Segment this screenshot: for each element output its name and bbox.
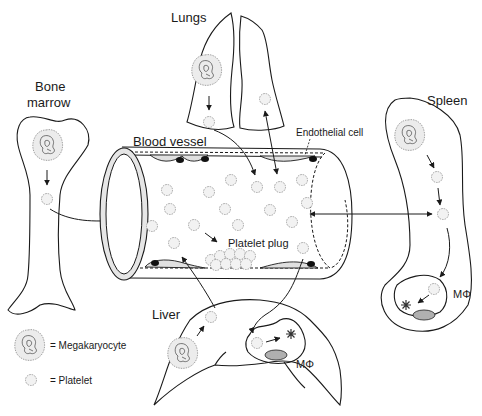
blood-vessel: Blood vessel Endothelial cell	[100, 127, 363, 280]
endothelial-nucleus	[176, 157, 184, 163]
plug-platelet	[221, 259, 232, 270]
platelet-plug	[206, 249, 256, 271]
lungs-megakaryocyte	[192, 55, 222, 86]
liver-production-arrow	[197, 326, 204, 336]
liver-phagocytosis-arrow	[266, 338, 280, 342]
platelet	[226, 175, 237, 186]
platelet	[302, 198, 313, 209]
lungs-platelet-2	[260, 94, 271, 105]
plug-platelet	[241, 259, 252, 270]
vessel-top-basement-membrane	[130, 152, 325, 153]
platelet-lifecycle-diagram: Lungs Bone marrow Blood vessel	[0, 0, 482, 416]
plug-platelet	[211, 260, 222, 271]
spleen-degraded-platelet-icon	[401, 300, 411, 310]
bone-marrow-platelet	[42, 194, 53, 205]
endothelial-cell	[260, 156, 315, 161]
liver-degraded-platelet-icon	[286, 329, 296, 339]
legend: = Megakaryocyte = Platelet	[15, 330, 127, 386]
lungs-organ: Lungs	[171, 10, 284, 130]
endothelial-cell-label: Endothelial cell	[296, 127, 363, 138]
vessel-far-end-opening	[311, 153, 348, 268]
plug-platelet	[231, 259, 242, 270]
platelet	[220, 204, 231, 215]
liver-macrophage-nucleus	[265, 350, 287, 360]
platelet-plug-label: Platelet plug	[228, 237, 289, 249]
spleen-flow-arrow	[438, 188, 440, 205]
bone-marrow-megakaryocyte	[33, 130, 63, 161]
platelet	[265, 205, 276, 216]
plug-platelet	[235, 249, 246, 260]
spleen-production-arrow	[427, 155, 434, 168]
platelet	[252, 182, 263, 193]
spleen-platelet	[432, 172, 443, 183]
endothelial-nucleus	[309, 156, 317, 162]
blood-vessel-label: Blood vessel	[133, 134, 207, 149]
bone-marrow-label-line2: marrow	[27, 95, 71, 110]
legend-megakaryocyte-symbol	[15, 330, 45, 361]
platelet	[204, 187, 215, 198]
liver-label: Liver	[152, 307, 181, 322]
endothelial-nucleus	[151, 260, 159, 266]
vessel-near-end-lumen	[106, 154, 142, 274]
spleen-macrophage-label: MΦ	[453, 288, 471, 300]
liver-engulfed-platelet	[252, 338, 263, 349]
legend-platelet-label: = Platelet	[50, 375, 92, 386]
platelet	[169, 238, 180, 249]
liver-lobe-line	[215, 352, 226, 365]
platelet	[189, 220, 200, 231]
lungs-vessel-exchange-arrow	[265, 111, 277, 174]
spleen-platelet-2	[438, 209, 449, 220]
legend-megakaryocyte-label: = Megakaryocyte	[50, 340, 127, 351]
legend-platelet-symbol	[26, 375, 37, 386]
spleen-engulfed-platelet	[429, 284, 440, 295]
platelet	[162, 185, 173, 196]
right-lung-outline	[239, 16, 284, 130]
spleen-phagocytosis-arrow	[418, 295, 429, 303]
bone-marrow-label-line1: Bone	[35, 79, 65, 94]
endothelial-nucleus	[307, 261, 315, 267]
spleen-macrophage-nucleus	[413, 310, 435, 320]
liver-megakaryocyte	[168, 338, 198, 369]
platelet	[298, 243, 309, 254]
platelet	[275, 182, 286, 193]
endothelial-nucleus	[201, 156, 209, 162]
lungs-platelet	[204, 117, 215, 128]
spleen-to-macrophage-arrow	[440, 228, 450, 277]
spleen-label: Spleen	[427, 93, 467, 108]
plug-platelet	[225, 249, 236, 260]
spleen-megakaryocyte	[395, 120, 425, 151]
liver-macrophage-label: MΦ	[296, 358, 314, 370]
platelet	[165, 204, 176, 215]
liver-organ: Liver MΦ	[152, 300, 342, 405]
platelet	[233, 220, 244, 231]
plug-formation-arrow	[205, 233, 217, 242]
liver-platelet	[206, 312, 217, 323]
platelet	[297, 175, 308, 186]
platelet	[147, 221, 158, 232]
spleen-organ: Spleen MΦ	[381, 93, 471, 331]
lungs-label: Lungs	[171, 10, 207, 25]
platelet	[287, 217, 298, 228]
